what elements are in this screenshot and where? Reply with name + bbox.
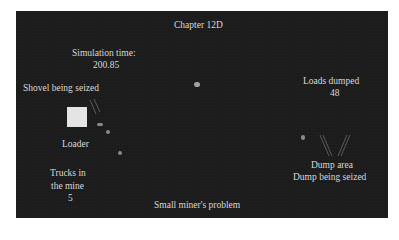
truck-icon xyxy=(106,130,110,134)
loader-icon xyxy=(67,107,87,127)
chapter-title: Chapter 12D xyxy=(174,20,223,31)
footer-caption: Small miner's problem xyxy=(154,200,240,211)
truck-icon xyxy=(194,82,200,87)
dump-status: Dump being seized xyxy=(293,172,366,183)
loads-dumped-label: Loads dumped xyxy=(303,76,359,87)
trucks-in-mine-label-1: Trucks in xyxy=(50,168,86,179)
loader-chute-icon xyxy=(88,98,102,118)
dump-area-icon xyxy=(318,133,352,159)
simulation-time-label: Simulation time: xyxy=(72,48,136,59)
truck-icon xyxy=(97,123,103,126)
truck-icon xyxy=(301,135,305,140)
truck-icon xyxy=(118,151,122,155)
loads-dumped-value: 48 xyxy=(330,88,340,99)
simulation-time-value: 200.85 xyxy=(93,60,119,71)
trucks-in-mine-value: 5 xyxy=(68,193,73,204)
trucks-in-mine-label-2: the mine xyxy=(51,181,84,192)
shovel-status: Shovel being seized xyxy=(23,83,99,94)
loader-label: Loader xyxy=(62,139,89,150)
dump-area-label: Dump area xyxy=(311,160,353,171)
